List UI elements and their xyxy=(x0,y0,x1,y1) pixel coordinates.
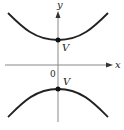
x-axis-label: x xyxy=(115,59,121,70)
lower-vertex-point xyxy=(56,87,61,92)
upper-vertex-label: V xyxy=(62,42,71,53)
upper-vertex-point xyxy=(56,38,61,43)
hyperbola-diagram: y x 0 V V xyxy=(0,0,124,130)
y-axis-label: y xyxy=(56,0,63,10)
lower-vertex-label: V xyxy=(63,76,72,87)
origin-label: 0 xyxy=(50,69,56,79)
y-axis-arrow-icon xyxy=(56,11,61,18)
x-axis-arrow-icon xyxy=(106,63,113,68)
